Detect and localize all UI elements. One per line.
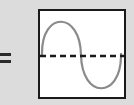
- equals-sign: [0, 53, 11, 63]
- sine-wave-graph: [40, 11, 124, 97]
- equals-bar-bottom: [0, 60, 11, 63]
- equals-bar-top: [0, 53, 11, 56]
- waveform-panel: [38, 9, 126, 99]
